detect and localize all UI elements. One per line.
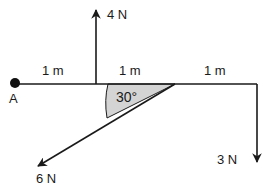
- point-a-dot: [10, 78, 20, 88]
- segment-3-label: 1 m: [204, 64, 226, 77]
- force-4n-label: 4 N: [107, 8, 127, 21]
- segment-2-label: 1 m: [119, 64, 141, 77]
- angle-label: 30°: [116, 90, 137, 104]
- force-diagram: A 1 m 1 m 1 m 30° 4 N 6 N 3 N: [0, 0, 266, 192]
- segment-1-label: 1 m: [42, 64, 64, 77]
- point-a-label: A: [9, 92, 18, 105]
- force-6n-label: 6 N: [36, 172, 56, 185]
- force-3n-label: 3 N: [217, 153, 237, 166]
